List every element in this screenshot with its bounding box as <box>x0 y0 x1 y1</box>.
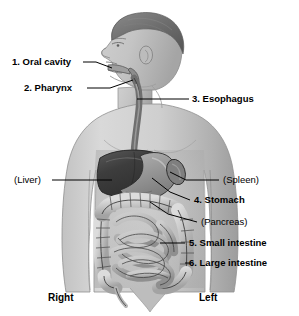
orientation-right: Right <box>48 292 74 303</box>
label-stomach: 4. Stomach <box>194 194 245 205</box>
anatomy-illustration <box>0 0 299 316</box>
anatomy-figure: 1. Oral cavity 2. Pharynx 3. Esophagus (… <box>0 0 299 316</box>
label-esophagus: 3. Esophagus <box>192 93 254 104</box>
label-oral-cavity: 1. Oral cavity <box>12 56 71 67</box>
orientation-left: Left <box>199 292 217 303</box>
label-large-intestine: 6. Large intestine <box>189 257 267 268</box>
label-small-intestine: 5. Small intestine <box>189 237 267 248</box>
label-spleen: (Spleen) <box>223 174 259 185</box>
label-pancreas: (Pancreas) <box>201 216 247 227</box>
label-pharynx: 2. Pharynx <box>24 82 72 93</box>
label-liver: (Liver) <box>14 174 41 185</box>
